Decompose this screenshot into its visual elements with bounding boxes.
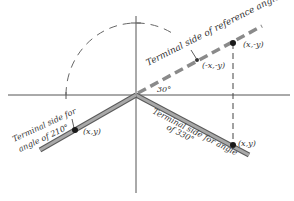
reference-side-label: Terminal side of reference angle (144, 0, 281, 68)
point-x-neg-y-label: (x,-y) (243, 40, 264, 49)
point-330-label: (x,y) (238, 139, 256, 148)
point-210 (72, 127, 78, 133)
point-210-label: (x,y) (83, 127, 101, 136)
point-x-neg-y (230, 40, 236, 46)
reference-label-pointer (191, 50, 196, 58)
point-neg-x-neg-y (195, 58, 199, 62)
point-neg-x-neg-y-label: (-x,-y) (202, 61, 225, 70)
terminal-330-label-line1: Terminal side for angle (151, 107, 239, 158)
terminal-210-pointer (72, 119, 74, 128)
reference-angle-diagram: Terminal side of reference angle (-x,-y)… (0, 0, 294, 201)
angle-30-label: 30° (157, 85, 171, 94)
